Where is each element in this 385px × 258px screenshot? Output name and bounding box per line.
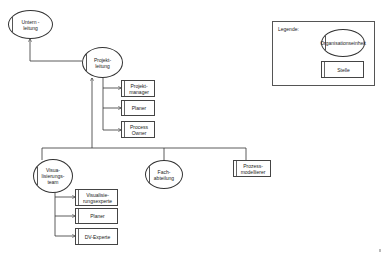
planer-projektleitung-label: Planer xyxy=(123,100,155,116)
dv-experte-label: DV-Experte xyxy=(77,228,118,245)
fachabteilung-label: Fach- abteilung xyxy=(145,160,183,189)
legend-org-unit-label: Organisationseinheit xyxy=(312,29,374,57)
prozessmodellierer-label: Prozess- modellierer xyxy=(235,160,271,177)
visualisierungsteam-label: Visua- lisierungs- team xyxy=(33,159,73,193)
projektmanager-label: Projekt- manager xyxy=(123,80,155,97)
planer-visualisierungsteam-label: Planer xyxy=(77,208,118,224)
legend-title: Legende: xyxy=(278,26,299,32)
process-owner-label: Process Owner xyxy=(123,121,155,138)
projektleitung-label: Projekt- leitung xyxy=(82,47,123,78)
legend-position-label: Stelle xyxy=(323,61,364,78)
visualisierungsexperte-label: Visualisie- rungsexperte xyxy=(77,189,118,206)
unternehmensleitung-label: Untern - leitung xyxy=(8,10,53,39)
page-marker xyxy=(379,249,381,252)
